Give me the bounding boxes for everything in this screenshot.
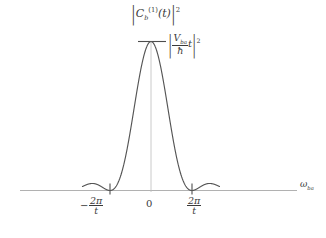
xtick-label-positive-two-pi-over-t: 2π t — [187, 196, 201, 217]
y-quantity-label: |Cb(1)(t)|2 — [131, 7, 180, 21]
two-pi-over-t-fraction-left: 2π t — [89, 196, 103, 217]
pos-fraction-numerator: 2π — [187, 196, 201, 206]
figure-container: |Cb(1)(t)|2 | Vba ħ t|2 − 2π t 0 2π t ωb… — [0, 0, 326, 238]
abs-exponent: 2 — [176, 6, 180, 14]
v-over-hbar-fraction: Vba ħ — [172, 33, 188, 57]
neg-fraction-numerator: 2π — [89, 196, 103, 206]
xtick-label-zero: 0 — [146, 199, 152, 209]
peak-value-label: | Vba ħ t|2 — [168, 33, 200, 57]
fraction-denominator: ħ — [172, 45, 188, 56]
c-superscript-order: (1) — [148, 6, 158, 14]
v-subscript: ba — [180, 38, 187, 44]
peak-abs-bar-right: | — [192, 32, 196, 57]
sinc-squared-plot — [0, 0, 326, 238]
omega-subscript: ba — [307, 185, 313, 191]
pos-fraction-denominator: t — [187, 205, 201, 216]
x-axis-label: ωba — [300, 180, 314, 191]
xtick-label-negative-two-pi-over-t: − 2π t — [80, 196, 103, 217]
c-argument: (t) — [158, 7, 171, 20]
c-subscript: b — [144, 14, 148, 22]
minus-sign: − — [80, 201, 89, 211]
abs-bar-left: | — [131, 3, 136, 24]
peak-abs-exponent: 2 — [196, 37, 200, 44]
c-symbol: C — [136, 7, 144, 20]
neg-fraction-denominator: t — [89, 205, 103, 216]
fraction-numerator: Vba — [172, 33, 188, 46]
two-pi-over-t-fraction-right: 2π t — [187, 196, 201, 217]
abs-bar-right: | — [171, 3, 176, 24]
